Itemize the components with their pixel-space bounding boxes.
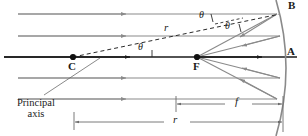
label-theta-at-center: θ <box>138 42 143 52</box>
reflected-ray-2-arrow <box>242 36 280 46</box>
label-point-B: B <box>288 0 295 11</box>
label-focal-length: f <box>235 96 238 107</box>
theta-arc-reflected <box>239 24 241 32</box>
label-theta-reflected: θ <box>225 21 230 31</box>
principal-axis-annotation: Principal axis <box>4 98 68 119</box>
label-point-A: A <box>287 46 295 57</box>
radius-dimension-line <box>74 112 283 132</box>
mirror-arc <box>276 0 286 136</box>
label-radius-dimension: r <box>173 114 177 125</box>
label-point-F: F <box>193 61 200 72</box>
principal-axis-line2: axis <box>4 109 68 120</box>
label-theta-incident: θ <box>199 10 204 20</box>
label-radius-on-dashed: r <box>164 22 168 33</box>
reflected-ray-4-arrow <box>242 68 280 78</box>
theta-arc-incident <box>211 14 213 22</box>
focal-length-dimension-line <box>176 96 283 112</box>
reflected-ray-1-arrow <box>240 14 277 37</box>
label-point-C: C <box>68 61 76 72</box>
optics-diagram-figure: A B C F θ θ θ r f r Principal axis <box>0 0 308 136</box>
principal-axis-line1: Principal <box>4 98 68 109</box>
reflected-ray-5-arrow <box>240 79 277 99</box>
